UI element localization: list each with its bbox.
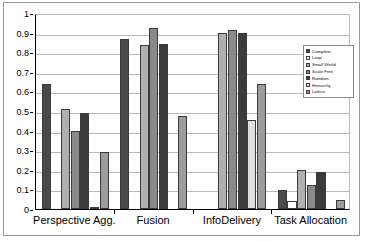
x-category-label: Task Allocation	[274, 214, 347, 226]
y-tick-mark	[30, 92, 33, 93]
y-tick-label: 0.5	[16, 108, 29, 117]
chart-legend: CompleteLoopSmall WorldScale FreeRandomH…	[303, 45, 354, 98]
x-category-label: Perspective Agg.	[33, 214, 116, 226]
y-tick-mark	[30, 171, 33, 172]
legend-label: Complete	[312, 49, 331, 54]
bar	[71, 131, 80, 209]
bar	[297, 170, 306, 209]
bar	[278, 190, 287, 209]
legend-label: Lattice	[312, 89, 325, 94]
y-tick-label: 0.8	[16, 49, 29, 58]
legend-swatch-icon	[306, 49, 310, 53]
y-tick-mark	[30, 73, 33, 74]
bar	[80, 113, 89, 209]
bar	[257, 84, 266, 209]
y-tick-label: 0.6	[16, 88, 29, 97]
bar	[316, 172, 325, 209]
legend-swatch-icon	[306, 76, 310, 80]
bar	[120, 39, 129, 209]
y-tick-label: 0.2	[16, 166, 29, 175]
bar	[100, 152, 109, 209]
y-tick-mark	[30, 53, 33, 54]
y-axis: 00.10.20.30.40.50.60.70.80.91	[4, 14, 33, 210]
bar	[247, 120, 256, 209]
plot-area	[35, 14, 350, 210]
y-tick-mark	[30, 151, 33, 152]
y-tick-mark	[30, 210, 33, 211]
x-category-label: Fusion	[137, 214, 170, 226]
y-tick-mark	[30, 34, 33, 35]
bar	[61, 109, 70, 209]
bar	[140, 45, 149, 209]
bar	[238, 33, 247, 209]
legend-swatch-icon	[306, 83, 310, 87]
y-tick-label: 0.4	[16, 127, 29, 136]
y-tick-label: 0.9	[16, 29, 29, 38]
legend-swatch-icon	[306, 56, 310, 60]
legend-item[interactable]: Small World	[306, 62, 351, 68]
legend-label: Scale Free	[312, 69, 333, 74]
legend-swatch-icon	[306, 90, 310, 94]
x-tick-mark	[193, 210, 194, 214]
legend-swatch-icon	[306, 70, 310, 74]
chart-frame: 00.10.20.30.40.50.60.70.80.91 Perspectiv…	[3, 2, 360, 236]
bar	[287, 201, 296, 209]
legend-label: Random	[312, 76, 329, 81]
y-tick-mark	[30, 14, 33, 15]
bar	[307, 185, 316, 209]
bar	[178, 116, 187, 209]
x-category-label: InfoDelivery	[203, 214, 261, 226]
y-tick-mark	[30, 132, 33, 133]
legend-label: Loop	[312, 55, 322, 60]
y-tick-label: 0.3	[16, 147, 29, 156]
legend-swatch-icon	[306, 63, 310, 67]
bar	[149, 28, 158, 209]
y-tick-mark	[30, 112, 33, 113]
legend-label: Hierarchy	[312, 83, 331, 88]
legend-item[interactable]: Scale Free	[306, 68, 351, 74]
x-axis: Perspective Agg.FusionInfoDeliveryTask A…	[35, 214, 350, 234]
x-tick-mark	[114, 210, 115, 214]
legend-item[interactable]: Loop	[306, 55, 351, 61]
bar	[159, 44, 168, 209]
bar	[90, 207, 99, 209]
bar	[218, 33, 227, 209]
y-tick-label: 1	[24, 10, 29, 19]
y-tick-label: 0.1	[16, 186, 29, 195]
legend-item[interactable]: Hierarchy	[306, 82, 351, 88]
bar	[42, 84, 51, 209]
legend-item[interactable]: Random	[306, 75, 351, 81]
bar	[336, 200, 345, 209]
y-tick-label: 0	[24, 206, 29, 215]
bar	[228, 30, 237, 209]
y-tick-mark	[30, 190, 33, 191]
x-tick-mark	[271, 210, 272, 214]
y-tick-label: 0.7	[16, 68, 29, 77]
legend-item[interactable]: Complete	[306, 48, 351, 54]
legend-label: Small World	[312, 62, 336, 67]
legend-item[interactable]: Lattice	[306, 89, 351, 95]
